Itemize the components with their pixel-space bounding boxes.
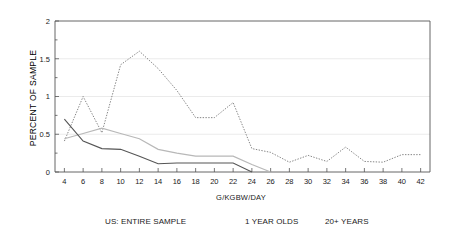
y-tick-label: 0.5 [40, 130, 50, 139]
chart-figure: 00.511.52 468101214161820222426283032343… [0, 0, 454, 235]
legend-item-label: 20+ YEARS [325, 217, 369, 226]
x-tick-label: 32 [323, 177, 331, 186]
series-line [64, 51, 420, 162]
gridlines [55, 59, 430, 135]
x-tick-label: 26 [266, 177, 274, 186]
y-tick-label: 0 [46, 168, 50, 177]
x-tick-label: 6 [81, 177, 85, 186]
x-tick-label: 14 [154, 177, 162, 186]
x-tick-label: 42 [416, 177, 424, 186]
x-tick-label: 40 [398, 177, 406, 186]
y-tick-label: 1 [46, 92, 50, 101]
x-tick-label: 30 [304, 177, 312, 186]
x-axis-title: G/KGBW/DAY [216, 193, 266, 202]
line-chart: 00.511.52 468101214161820222426283032343… [0, 0, 454, 235]
x-tick-label: 38 [379, 177, 387, 186]
legend-item-label: US: ENTIRE SAMPLE [105, 217, 186, 226]
x-tick-label: 24 [248, 177, 256, 186]
x-tick-label: 8 [100, 177, 104, 186]
legend: US: ENTIRE SAMPLE1 YEAR OLDS20+ YEARS [105, 217, 369, 226]
x-tick-label: 10 [116, 177, 124, 186]
x-tick-label: 28 [285, 177, 293, 186]
x-tick-label: 16 [173, 177, 181, 186]
x-tick-label: 12 [135, 177, 143, 186]
data-series [64, 51, 420, 172]
x-tick-label: 4 [62, 177, 66, 186]
series-line [64, 128, 270, 172]
x-tick-label: 20 [210, 177, 218, 186]
legend-item-label: 1 YEAR OLDS [245, 217, 298, 226]
x-axis-tick-labels: 4681012141618202224262830323436384042 [62, 177, 425, 186]
x-tick-label: 34 [341, 177, 349, 186]
y-axis-tick-labels: 00.511.52 [40, 17, 50, 177]
series-line [64, 119, 252, 172]
y-axis-title: PERCENT OF SAMPLE [28, 50, 38, 147]
y-tick-label: 2 [46, 17, 50, 26]
y-tick-label: 1.5 [40, 55, 50, 64]
x-tick-label: 22 [229, 177, 237, 186]
x-tick-label: 36 [360, 177, 368, 186]
x-tick-label: 18 [191, 177, 199, 186]
